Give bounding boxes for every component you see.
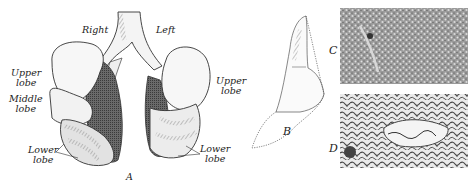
label-middle-lobe: Middle lobe xyxy=(9,94,43,114)
label-left: Left xyxy=(156,25,175,35)
panel-letter-b: B xyxy=(283,127,291,137)
panel-letter-d: D xyxy=(329,144,338,154)
label-upper-lobe-left: Upper lobe xyxy=(216,76,246,96)
micrograph-c xyxy=(340,8,468,84)
label-lower-lobe-right: Lower lobe xyxy=(28,145,58,165)
label-lower-lobe-left: Lower lobe xyxy=(200,144,230,164)
figure: Right Left Upper lobe Middle lobe Lower … xyxy=(0,0,472,188)
panel-letter-a: A xyxy=(126,172,133,182)
label-right: Right xyxy=(82,25,108,35)
panel-letter-c: C xyxy=(329,46,337,56)
label-upper-lobe-right: Upper lobe xyxy=(11,68,41,88)
